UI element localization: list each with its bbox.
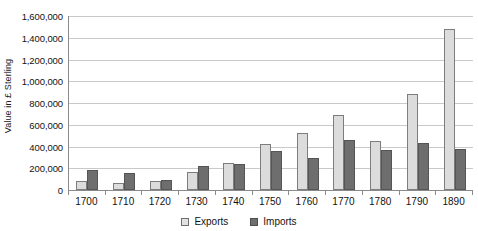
x-tick (68, 191, 69, 195)
x-tick-label: 1740 (222, 196, 244, 207)
bar-group (333, 16, 355, 190)
bar-imports-1770 (344, 140, 355, 190)
x-tick-label: 1780 (369, 196, 391, 207)
bar-group (223, 16, 245, 190)
bar-group (260, 16, 282, 190)
bar-group (187, 16, 209, 190)
x-tick (105, 191, 106, 195)
x-tick (472, 191, 473, 195)
y-tick-label: 400,000 (29, 141, 63, 152)
legend-label: Imports (263, 216, 296, 227)
chart-legend: ExportsImports (0, 212, 478, 231)
legend-item-exports[interactable]: Exports (181, 216, 228, 227)
y-axis-tick-labels: 0200,000400,000600,000800,0001,000,0001,… (16, 0, 66, 231)
bar-group (444, 16, 466, 190)
bar-exports-1770 (333, 115, 344, 190)
bar-exports-1780 (370, 141, 381, 190)
bar-exports-1740 (223, 163, 234, 190)
bar-group (150, 16, 172, 190)
x-axis: 1700171017201730174017501760177017801790… (68, 191, 472, 213)
bar-imports-1750 (271, 151, 282, 190)
y-tick-label: 0 (58, 185, 63, 196)
bar-imports-1700 (87, 170, 98, 190)
y-tick-label: 1,000,000 (22, 76, 63, 87)
legend-label: Exports (194, 216, 228, 227)
bar-exports-1720 (150, 181, 161, 190)
legend-swatch-icon (250, 218, 258, 226)
x-tick-label: 1720 (149, 196, 171, 207)
bar-exports-1890 (444, 29, 455, 190)
bar-imports-1890 (455, 149, 466, 190)
bar-chart: Value in £ Sterling 0200,000400,000600,0… (0, 0, 478, 231)
bar-group (297, 16, 319, 190)
x-tick (252, 191, 253, 195)
y-axis-title-text: Value in £ Sterling (3, 59, 13, 133)
x-tick (141, 191, 142, 195)
bar-exports-1730 (187, 172, 198, 190)
bar-imports-1780 (381, 150, 392, 190)
x-tick-label: 1700 (75, 196, 97, 207)
bar-exports-1710 (113, 183, 124, 190)
y-axis-title: Value in £ Sterling (0, 0, 16, 192)
bar-imports-1720 (161, 180, 172, 190)
plot-area (68, 16, 473, 191)
bar-imports-1710 (124, 173, 135, 190)
y-tick-label: 200,000 (29, 163, 63, 174)
x-tick-label: 1790 (406, 196, 428, 207)
x-tick (435, 191, 436, 195)
x-tick-label: 1730 (185, 196, 207, 207)
legend-item-imports[interactable]: Imports (250, 216, 296, 227)
bar-group (76, 16, 98, 190)
x-tick (399, 191, 400, 195)
bar-group (113, 16, 135, 190)
x-tick (178, 191, 179, 195)
y-tick-label: 1,600,000 (22, 11, 63, 22)
bar-group (370, 16, 392, 190)
bar-group (407, 16, 429, 190)
bars-layer (69, 16, 473, 190)
x-tick-label: 1770 (332, 196, 354, 207)
y-tick-label: 1,200,000 (22, 54, 63, 65)
x-tick-label: 1760 (296, 196, 318, 207)
x-tick (325, 191, 326, 195)
y-tick-label: 800,000 (29, 98, 63, 109)
y-tick-label: 600,000 (29, 119, 63, 130)
bar-exports-1760 (297, 133, 308, 190)
bar-imports-1740 (234, 164, 245, 190)
bar-imports-1730 (198, 166, 209, 190)
bar-exports-1700 (76, 181, 87, 190)
x-tick (362, 191, 363, 195)
bar-exports-1790 (407, 94, 418, 190)
x-tick-label: 1750 (259, 196, 281, 207)
y-tick-label: 1,400,000 (22, 32, 63, 43)
x-tick (288, 191, 289, 195)
x-tick (215, 191, 216, 195)
bar-imports-1790 (418, 143, 429, 190)
x-tick-label: 1710 (112, 196, 134, 207)
bar-exports-1750 (260, 144, 271, 190)
bar-imports-1760 (308, 158, 319, 190)
x-tick-label: 1890 (443, 196, 465, 207)
legend-swatch-icon (181, 218, 189, 226)
